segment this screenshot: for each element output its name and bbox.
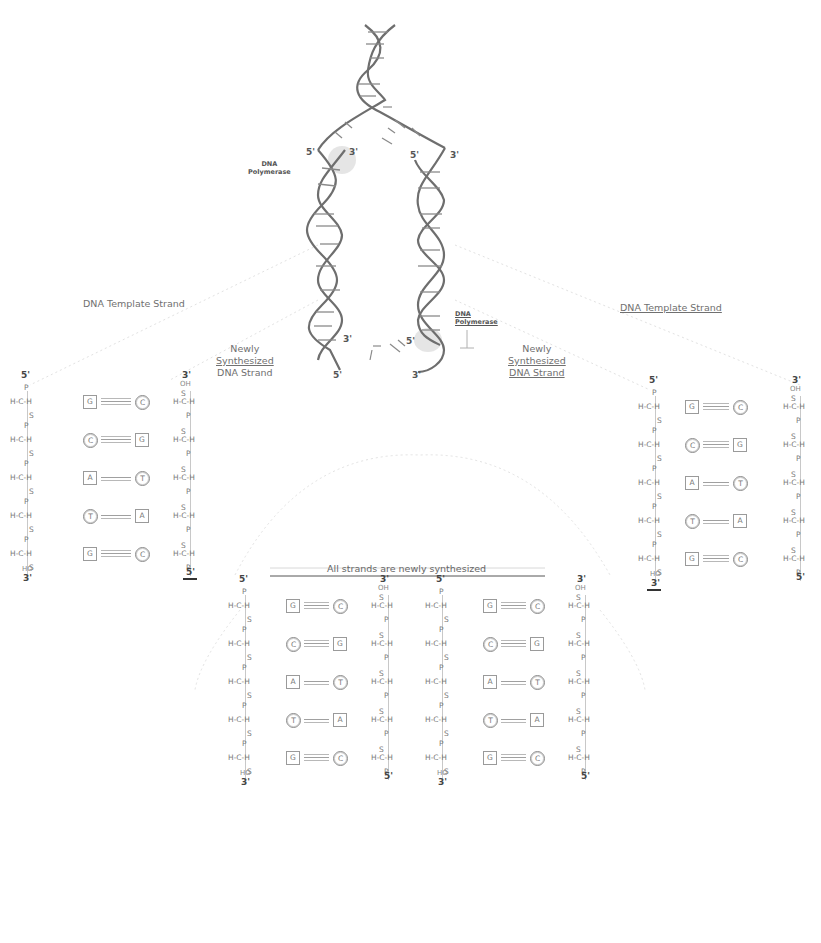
hydrogen-bond-double — [703, 482, 729, 483]
base-g: G — [333, 637, 347, 651]
sugar-carbon: H-C-H — [10, 397, 32, 406]
phosphate: P — [186, 525, 191, 534]
strand-left-3prime-end: 3' — [651, 578, 660, 588]
base-t: T — [530, 675, 545, 690]
phosphate: P — [186, 449, 191, 458]
hydroxyl-bottom: HO — [240, 769, 251, 777]
base-t: T — [733, 476, 748, 491]
phosphate: P — [581, 691, 586, 700]
base-g: G — [483, 751, 497, 765]
sugar-carbon: H-C-H — [425, 753, 447, 762]
sugar-carbon: H-C-H — [425, 639, 447, 648]
base-a: A — [333, 713, 347, 727]
hydrogen-bond-triple — [304, 643, 329, 644]
hydroxyl-bottom: HO — [650, 570, 661, 578]
hydrogen-bond-triple — [304, 605, 329, 606]
base-t: T — [685, 514, 700, 529]
base-t: T — [135, 471, 150, 486]
base-c: C — [286, 637, 301, 652]
helix-left-top-5prime: 5' — [306, 147, 315, 157]
hydrogen-bond-triple — [703, 558, 729, 559]
sugar-carbon: H-C-H — [173, 397, 195, 406]
strand-right-5prime-end: 5' — [384, 771, 393, 781]
base-g: G — [530, 637, 544, 651]
sugar-carbon: H-C-H — [568, 753, 590, 762]
strand-right-5prime-end: 5' — [186, 567, 195, 577]
polymerase-bottom-glow — [414, 328, 442, 352]
phosphate: P — [242, 625, 247, 634]
hydroxyl-bottom: HO — [22, 565, 33, 573]
sugar-carbon: H-C-H — [425, 601, 447, 610]
hydrogen-bond-double — [101, 515, 131, 516]
dna-replication-diagram: 5' 3' 5' 3' 3' 5' 5' 3' DNA Polymerase D… — [0, 0, 821, 943]
sugar-carbon: H-C-H — [568, 601, 590, 610]
sugar-carbon: H-C-H — [228, 639, 250, 648]
sugar: S — [247, 615, 252, 624]
strand-left-3prime-end: 3' — [241, 777, 250, 787]
sugar-carbon: H-C-H — [568, 677, 590, 686]
base-c: C — [333, 599, 348, 614]
base-g: G — [83, 547, 97, 561]
base-a: A — [530, 713, 544, 727]
base-a: A — [483, 675, 497, 689]
base-c: C — [530, 599, 545, 614]
sugar-carbon: H-C-H — [568, 715, 590, 724]
helix-left-top-3prime: 3' — [349, 147, 358, 157]
phosphate: P — [186, 487, 191, 496]
phosphate: P — [384, 691, 389, 700]
base-a: A — [286, 675, 300, 689]
sugar-carbon: H-C-H — [371, 715, 393, 724]
sugar: S — [657, 530, 662, 539]
base-g: G — [733, 438, 747, 452]
phosphate: P — [796, 454, 801, 463]
phosphate: P — [186, 411, 191, 420]
phosphate: P — [796, 492, 801, 501]
sugar: S — [444, 653, 449, 662]
base-t: T — [83, 509, 98, 524]
sugar-carbon: H-C-H — [10, 435, 32, 444]
sugar-carbon: H-C-H — [228, 715, 250, 724]
strand-right-3prime-end: 3' — [182, 370, 191, 380]
sugar-carbon: H-C-H — [173, 435, 195, 444]
base-t: T — [333, 675, 348, 690]
sugar-carbon: H-C-H — [638, 554, 660, 563]
helix-right-bottom-3prime: 3' — [412, 370, 421, 380]
strand-right-3prime-end: 3' — [792, 375, 801, 385]
hydrogen-bond-triple — [101, 401, 131, 402]
phosphate: P — [439, 663, 444, 672]
new-strand-label-left: Newly Synthesized DNA Strand — [216, 343, 274, 379]
sugar: S — [247, 653, 252, 662]
base-a: A — [685, 476, 699, 490]
sugar-carbon: H-C-H — [10, 511, 32, 520]
base-c: C — [135, 547, 150, 562]
strand-left-3prime-end: 3' — [438, 777, 447, 787]
hydrogen-bond-triple — [501, 605, 526, 606]
phosphate: P — [384, 729, 389, 738]
base-g: G — [483, 599, 497, 613]
sugar-carbon: H-C-H — [783, 440, 805, 449]
base-a: A — [135, 509, 149, 523]
base-c: C — [685, 438, 700, 453]
strand-left-5prime-end: 5' — [239, 574, 248, 584]
base-t: T — [286, 713, 301, 728]
hydroxyl-top: OH — [575, 584, 586, 592]
hydroxyl-top: OH — [378, 584, 389, 592]
hydrogen-bond-triple — [703, 406, 729, 407]
phosphate: P — [439, 587, 444, 596]
sugar-carbon: H-C-H — [783, 554, 805, 563]
sugar: S — [29, 449, 34, 458]
sugar: S — [29, 487, 34, 496]
sugar: S — [657, 454, 662, 463]
hydrogen-bond-triple — [101, 439, 131, 440]
phosphate: P — [581, 615, 586, 624]
hydrogen-bond-double — [501, 719, 526, 720]
all-strands-new-label: All strands are newly synthesized — [327, 563, 486, 575]
base-g: G — [286, 599, 300, 613]
sugar: S — [247, 729, 252, 738]
sugar-carbon: H-C-H — [425, 677, 447, 686]
hydroxyl-top: OH — [790, 385, 801, 393]
base-c: C — [733, 400, 748, 415]
hydrogen-bond-triple — [501, 643, 526, 644]
sugar: S — [657, 416, 662, 425]
sugar: S — [657, 492, 662, 501]
